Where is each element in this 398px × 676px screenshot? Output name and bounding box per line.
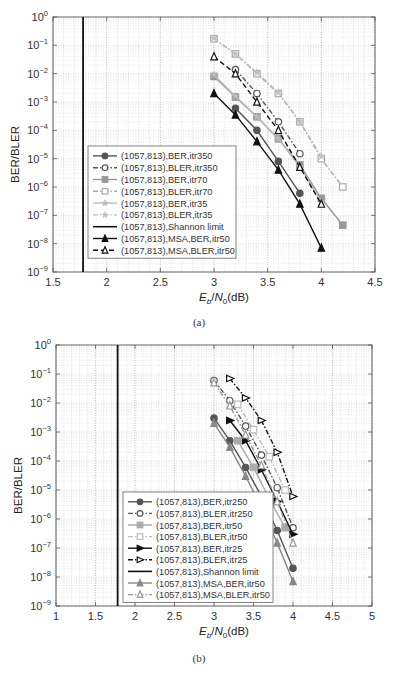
data-point — [102, 189, 108, 195]
legend-label: (1057,813),MSA,BLER,itr50 — [156, 590, 270, 600]
x-axis-label: Eb/N0(dB) — [199, 291, 249, 306]
y-tick-label: 10−7 — [27, 207, 48, 221]
data-point — [242, 423, 248, 429]
x-tick-label: 1.5 — [45, 276, 60, 288]
x-tick-label: 1.5 — [88, 610, 103, 622]
legend-label: (1057,813),BER,itr35 — [121, 199, 207, 209]
legend-label: (1057,813),MSA,BER,itr50 — [156, 579, 265, 589]
x-tick-label: 2 — [104, 276, 110, 288]
x-axis-label: Eb/N0(dB) — [199, 625, 249, 640]
x-tick-label: 3.5 — [246, 610, 261, 622]
data-point — [242, 464, 248, 470]
legend-label: (1057,813),BLER,itr25 — [156, 555, 247, 565]
legend-label: (1057,813),Shannon limit — [156, 567, 259, 577]
y-axis-label: BER/BLER — [9, 126, 21, 183]
data-point — [102, 165, 108, 171]
x-tick-label: 4 — [290, 610, 296, 622]
data-point — [137, 511, 143, 517]
x-tick-label: 4.5 — [367, 276, 382, 288]
x-tick-label: 1 — [53, 610, 59, 622]
legend-label: (1057,813),MSA,BER,itr50 — [121, 234, 230, 244]
data-point — [258, 452, 264, 458]
x-tick-label: 2.5 — [167, 610, 182, 622]
legend-label: (1057,813),BER,itr70 — [121, 175, 207, 185]
data-point — [137, 522, 143, 528]
y-tick-label: 10−7 — [30, 540, 51, 554]
chart-panel-b: 11.522.533.544.55Eb/N0(dB)10010−110−210−… — [0, 336, 398, 676]
data-point — [274, 527, 280, 533]
x-tick-label: 3 — [211, 610, 217, 622]
x-tick-label: 3.5 — [260, 276, 275, 288]
x-tick-label: 4 — [318, 276, 324, 288]
data-point — [275, 119, 281, 125]
y-tick-label: 10−1 — [30, 366, 51, 380]
x-tick-label: 3 — [211, 276, 217, 288]
x-tick-label: 2 — [132, 610, 138, 622]
y-tick-label: 10−8 — [27, 236, 48, 250]
data-point — [275, 158, 281, 164]
ber-bler-plot-a: 1.522.533.544.5Eb/N0(dB)10010−110−210−31… — [0, 0, 398, 336]
data-point — [266, 454, 272, 460]
legend-label: (1057,813),BER,itr25 — [156, 544, 242, 554]
y-axis-label: BER/BLER — [12, 457, 24, 514]
legend-label: (1057,813),BLER,itr50 — [156, 532, 247, 542]
y-tick-label: 10−6 — [30, 511, 51, 525]
data-point — [102, 153, 108, 159]
legend-label: (1057,813),MSA,BLER,itr50 — [121, 246, 235, 256]
data-point — [340, 184, 346, 190]
legend-label: (1057,813),Shannon limit — [121, 222, 224, 232]
data-point — [290, 565, 296, 571]
data-point — [137, 499, 143, 505]
legend: (1057,813),BER,itr250(1057,813),BLER,itr… — [123, 492, 273, 602]
y-tick-label: 10−4 — [30, 453, 51, 467]
data-point — [102, 177, 108, 183]
legend-label: (1057,813),BER,itr250 — [156, 497, 247, 507]
y-tick-label: 100 — [35, 337, 51, 351]
data-point — [235, 438, 241, 444]
y-tick-label: 10−2 — [30, 395, 51, 409]
data-point — [297, 190, 303, 196]
legend-label: (1057,813),BLER,itr70 — [121, 187, 212, 197]
x-tick-label: 2.5 — [153, 276, 168, 288]
data-point — [137, 534, 143, 540]
y-tick-label: 10−3 — [30, 424, 51, 438]
y-tick-label: 10−2 — [27, 66, 48, 80]
x-tick-label: 5 — [369, 610, 375, 622]
data-point — [297, 150, 303, 156]
data-point — [254, 127, 260, 133]
y-tick-label: 10−5 — [30, 482, 51, 496]
panel-caption: (a) — [0, 316, 398, 328]
x-tick-label: 4.5 — [325, 610, 340, 622]
ber-bler-plot-b: 11.522.533.544.55Eb/N0(dB)10010−110−210−… — [0, 336, 398, 676]
data-point — [254, 90, 260, 96]
legend-label: (1057,813),BLER,itr350 — [121, 163, 218, 173]
data-point — [340, 222, 346, 228]
legend: (1057,813),BER,itr350(1057,813),BLER,itr… — [88, 146, 236, 258]
legend-label: (1057,813),BER,itr350 — [121, 151, 212, 161]
legend-label: (1057,813),BER,itr50 — [156, 521, 242, 531]
y-tick-label: 10−3 — [27, 94, 48, 108]
data-point — [274, 485, 280, 491]
data-point — [250, 464, 256, 470]
y-tick-label: 10−4 — [27, 122, 48, 136]
panel-caption: (b) — [0, 652, 398, 664]
data-point — [250, 427, 256, 433]
legend-label: (1057,813),BLER,itr250 — [156, 509, 253, 519]
y-tick-label: 100 — [32, 9, 48, 23]
y-tick-label: 10−5 — [27, 151, 48, 165]
y-tick-label: 10−9 — [30, 598, 51, 612]
y-tick-label: 10−6 — [27, 179, 48, 193]
y-tick-label: 10−8 — [30, 569, 51, 583]
chart-panel-a: 1.522.533.544.5Eb/N0(dB)10010−110−210−31… — [0, 0, 398, 336]
data-point — [282, 487, 288, 493]
legend-label: (1057,813),BLER,itr35 — [121, 210, 212, 220]
data-point — [235, 401, 241, 407]
y-tick-label: 10−1 — [27, 37, 48, 51]
